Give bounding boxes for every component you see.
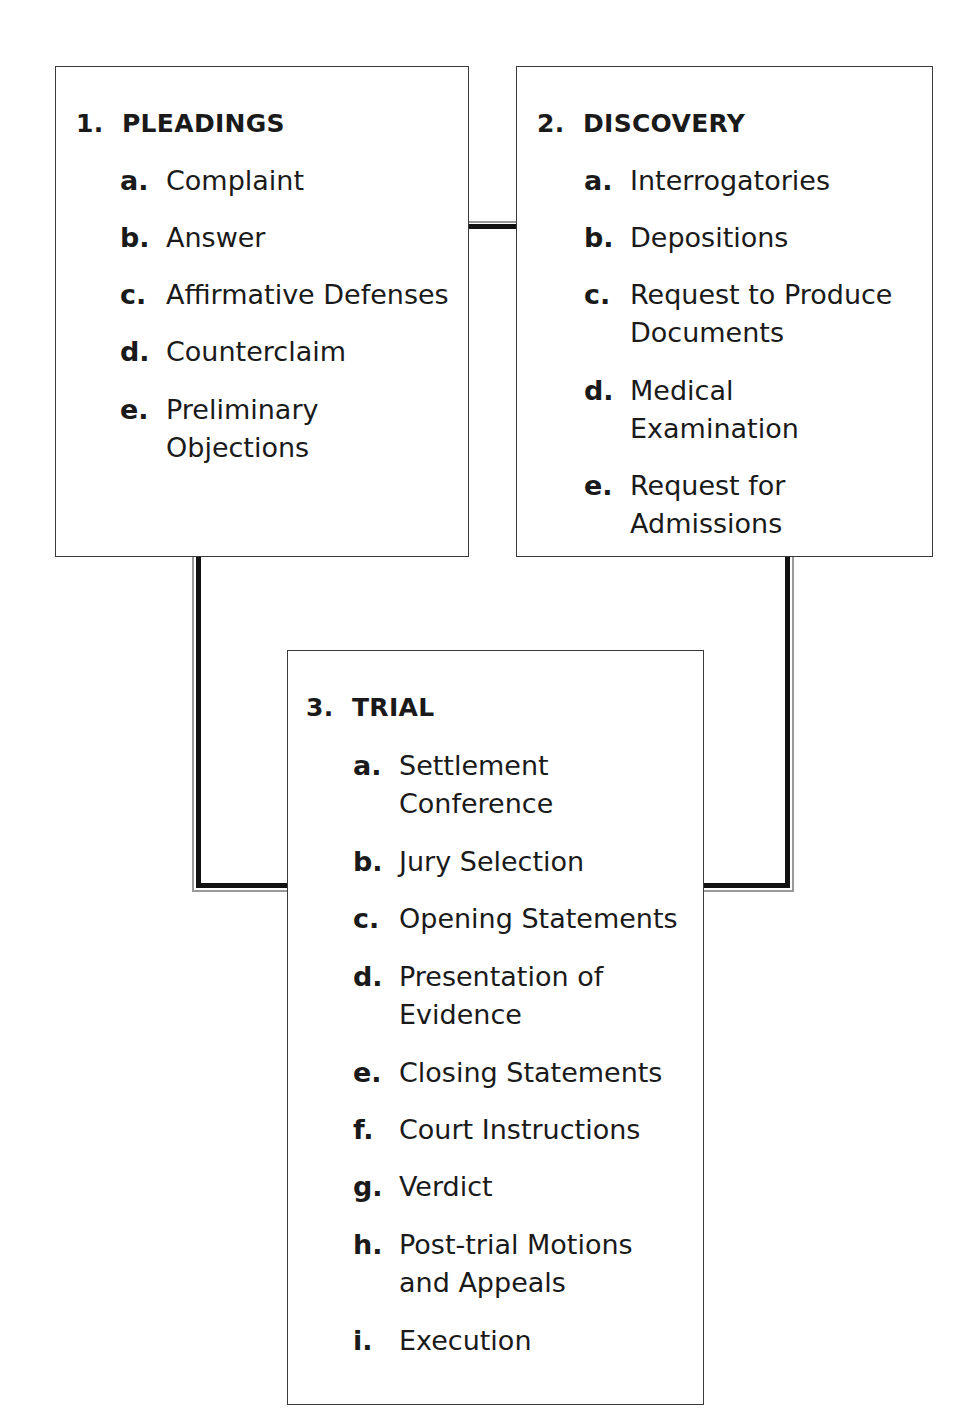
item-text: Presentation of xyxy=(399,958,603,996)
item-letter: b. xyxy=(353,843,383,881)
section-title: DISCOVERY xyxy=(583,109,745,138)
item-text: Medical xyxy=(630,372,733,410)
item-text: Answer xyxy=(166,219,265,257)
trial-title: 3.TRIAL xyxy=(306,693,434,722)
item-letter: h. xyxy=(353,1226,382,1264)
item-text: Jury Selection xyxy=(399,843,584,881)
item-text: Request to Produce xyxy=(630,276,893,314)
item-text: Documents xyxy=(630,314,784,352)
item-text: Complaint xyxy=(166,162,304,200)
item-letter: e. xyxy=(584,467,613,505)
pleadings-box: 1.PLEADINGS a.Complaint b.Answer c.Affir… xyxy=(55,66,469,557)
item-letter: a. xyxy=(584,162,612,200)
item-letter: b. xyxy=(120,219,150,257)
item-letter: c. xyxy=(353,900,379,938)
item-letter: i. xyxy=(353,1322,373,1360)
item-text: Court Instructions xyxy=(399,1111,640,1149)
item-text: Settlement xyxy=(399,747,549,785)
item-letter: d. xyxy=(584,372,614,410)
trial-box: 3.TRIAL a.Settlement Conference b.Jury S… xyxy=(287,650,704,1405)
item-letter: a. xyxy=(120,162,148,200)
section-title: TRIAL xyxy=(352,693,434,722)
section-number: 3. xyxy=(306,693,352,722)
item-text: Request for xyxy=(630,467,785,505)
item-letter: f. xyxy=(353,1111,374,1149)
item-text: Counterclaim xyxy=(166,333,346,371)
section-number: 1. xyxy=(76,109,122,138)
discovery-box: 2.DISCOVERY a.Interrogatories b.Depositi… xyxy=(516,66,933,557)
item-letter: c. xyxy=(120,276,146,314)
discovery-title: 2.DISCOVERY xyxy=(537,109,745,138)
item-text: Interrogatories xyxy=(630,162,830,200)
item-text: Objections xyxy=(166,429,309,467)
item-text: Conference xyxy=(399,785,553,823)
item-text: Opening Statements xyxy=(399,900,678,938)
item-letter: g. xyxy=(353,1168,383,1206)
item-text: Evidence xyxy=(399,996,522,1034)
item-text: Verdict xyxy=(399,1168,493,1206)
item-letter: c. xyxy=(584,276,610,314)
item-letter: b. xyxy=(584,219,614,257)
item-letter: e. xyxy=(120,391,149,429)
section-title: PLEADINGS xyxy=(122,109,285,138)
item-letter: d. xyxy=(120,333,150,371)
item-letter: d. xyxy=(353,958,383,996)
item-text: Depositions xyxy=(630,219,788,257)
item-letter: e. xyxy=(353,1054,382,1092)
item-letter: a. xyxy=(353,747,381,785)
item-text: Post-trial Motions xyxy=(399,1226,633,1264)
item-text: Preliminary xyxy=(166,391,318,429)
item-text: Execution xyxy=(399,1322,532,1360)
section-number: 2. xyxy=(537,109,583,138)
pleadings-title: 1.PLEADINGS xyxy=(76,109,285,138)
item-text: Admissions xyxy=(630,505,782,543)
item-text: Affirmative Defenses xyxy=(166,276,449,314)
item-text: and Appeals xyxy=(399,1264,566,1302)
item-text: Closing Statements xyxy=(399,1054,662,1092)
item-text: Examination xyxy=(630,410,799,448)
